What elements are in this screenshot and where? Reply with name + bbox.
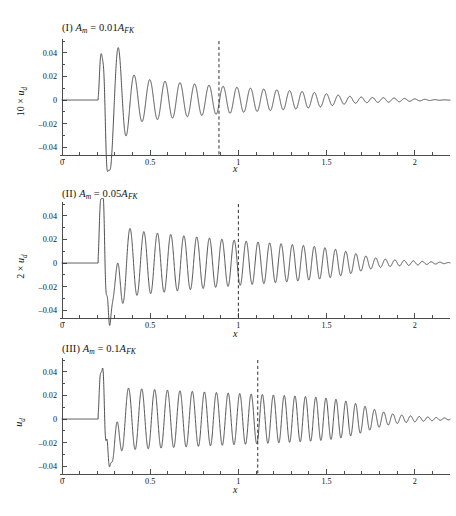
y-axis-tick-label: 0 bbox=[53, 415, 57, 424]
panel-I-equals: = bbox=[88, 22, 99, 33]
panel-III-y-axis-label: ud bbox=[13, 393, 26, 453]
panel-III-reference-sub: FK bbox=[126, 347, 136, 356]
panel-III-equals: = bbox=[95, 343, 106, 354]
y-axis-tick-label: 0.04 bbox=[43, 49, 57, 58]
x-axis-tick-label: 0.5 bbox=[145, 158, 155, 167]
panel-III-plot: 00.511.520.040.020–0.02–0.04 bbox=[0, 332, 456, 516]
x-axis-tick-label: 2 bbox=[413, 477, 417, 486]
panel-I-ylabel-sub: d bbox=[21, 87, 29, 91]
y-axis-tick-label: –0.02 bbox=[38, 283, 57, 292]
figure-container: (I) Am = 0.01AFK 10 × ud x 00.511.520.04… bbox=[0, 0, 456, 516]
panel-I-reference-sub: FK bbox=[124, 26, 134, 35]
y-axis-tick-label: –0.02 bbox=[38, 439, 57, 448]
panel-I: (I) Am = 0.01AFK 10 × ud x 00.511.520.04… bbox=[0, 0, 456, 178]
panel-I-y-axis-label: 10 × ud bbox=[15, 72, 28, 132]
panel-III-roman: (III) bbox=[62, 343, 80, 354]
y-axis-tick-label: –0.04 bbox=[38, 462, 57, 471]
x-axis-tick-label: 2 bbox=[413, 321, 417, 330]
panel-I-roman: (I) bbox=[62, 22, 73, 33]
panel-I-ylabel-prefix: 10 × bbox=[15, 95, 26, 116]
panel-I-coefficient: 0.01 bbox=[99, 22, 118, 33]
x-axis-tick-label: 1.5 bbox=[321, 477, 331, 486]
panel-I-title: (I) Am = 0.01AFK bbox=[62, 22, 134, 35]
panel-II-ylabel-sub: d bbox=[21, 254, 29, 258]
x-axis-tick-label: 2 bbox=[413, 158, 417, 167]
panel-III-ylabel-sub: d bbox=[19, 418, 27, 422]
y-axis-tick-label: –0.04 bbox=[38, 306, 57, 315]
panel-II-equals: = bbox=[91, 188, 102, 199]
panel-II-ylabel-prefix: 2 × bbox=[15, 263, 26, 279]
panel-III-title: (III) Am = 0.1AFK bbox=[62, 343, 136, 356]
panel-II-title: (II) Am = 0.05AFK bbox=[62, 188, 138, 201]
x-axis-tick-label: 1.5 bbox=[321, 321, 331, 330]
panel-III-x-axis-label: x bbox=[233, 484, 237, 495]
y-axis-tick-label: –0.02 bbox=[38, 120, 57, 129]
x-axis-tick-label: 0.5 bbox=[145, 477, 155, 486]
y-axis-tick-label: 0 bbox=[53, 259, 57, 268]
y-axis-tick-label: 0.02 bbox=[43, 391, 57, 400]
panel-II-roman: (II) bbox=[62, 188, 76, 199]
panel-II-reference-sub: FK bbox=[128, 192, 138, 201]
x-axis-tick-label: 1.5 bbox=[321, 158, 331, 167]
y-axis-tick-label: 0 bbox=[53, 96, 57, 105]
panel-III-ylabel-symbol: u bbox=[13, 422, 24, 427]
waveform-curve bbox=[62, 368, 450, 467]
y-axis-tick-label: 0.04 bbox=[43, 368, 57, 377]
panel-II-ylabel-symbol: u bbox=[15, 258, 26, 263]
y-axis-tick-label: –0.04 bbox=[38, 143, 57, 152]
y-axis-tick-label: 0.02 bbox=[43, 235, 57, 244]
panel-I-ylabel-symbol: u bbox=[15, 90, 26, 95]
waveform-curve bbox=[62, 199, 450, 326]
y-axis-tick-label: 0.02 bbox=[43, 72, 57, 81]
panel-II: (II) Am = 0.05AFK 2 × ud x 00.511.520.04… bbox=[0, 168, 456, 343]
x-axis-tick-label: 0.5 bbox=[145, 321, 155, 330]
panel-II-y-axis-label: 2 × ud bbox=[15, 237, 28, 297]
y-axis-tick-label: 0.04 bbox=[43, 212, 57, 221]
panel-II-coefficient: 0.05 bbox=[103, 188, 122, 199]
panel-III-coefficient: 0.1 bbox=[106, 343, 119, 354]
panel-III: (III) Am = 0.1AFK ud x 00.511.520.040.02… bbox=[0, 332, 456, 516]
